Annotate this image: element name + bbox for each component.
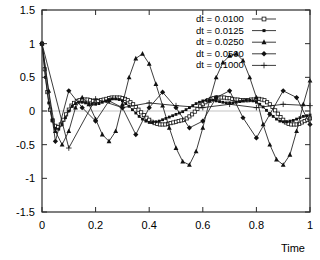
marker-filled-square (285, 120, 288, 123)
marker-filled-square (118, 98, 121, 101)
marker-filled-square (151, 121, 154, 124)
marker-filled-square (252, 100, 255, 103)
marker-filled-square (292, 119, 295, 122)
marker-open-square (274, 109, 277, 112)
marker-filled-square (222, 101, 225, 104)
marker-filled-square (295, 118, 298, 121)
marker-filled-square (185, 108, 188, 111)
marker-filled-square (181, 110, 184, 113)
marker-filled-square (205, 99, 208, 102)
marker-filled-square (98, 102, 101, 105)
marker-filled-square (248, 99, 251, 102)
x-tick-label: 0.8 (249, 219, 264, 231)
marker-filled-square (158, 120, 161, 123)
legend-sample-marker (263, 29, 266, 32)
marker-filled-square (138, 115, 141, 118)
x-axis-title: Time (281, 242, 305, 254)
y-tick-label: -1.5 (16, 206, 35, 218)
legend-label: dt = 0.1000 (196, 59, 244, 70)
marker-filled-square (124, 102, 127, 105)
marker-filled-square (74, 102, 77, 105)
marker-open-square (276, 112, 279, 115)
legend-label: dt = 0.0500 (196, 48, 244, 59)
x-tick-label: 1 (307, 219, 313, 231)
marker-filled-square (272, 115, 275, 118)
marker-filled-square (175, 113, 178, 116)
marker-filled-square (131, 108, 134, 111)
marker-filled-square (67, 110, 70, 113)
x-tick-label: 0.6 (195, 219, 210, 231)
marker-filled-square (263, 29, 266, 32)
line-chart: 00.20.40.60.81 1.510.50-0.5-1-1.5 Time d… (0, 0, 320, 260)
x-tick-label: 0.2 (88, 219, 103, 231)
y-tick-label: 0.5 (20, 71, 35, 83)
marker-filled-square (81, 101, 84, 104)
marker-filled-square (171, 114, 174, 117)
marker-filled-square (238, 100, 241, 103)
legend-label: dt = 0.0100 (196, 13, 244, 24)
marker-open-square (262, 17, 266, 21)
marker-filled-square (161, 118, 164, 121)
marker-filled-square (134, 112, 137, 115)
chart-container: 00.20.40.60.81 1.510.50-0.5-1-1.5 Time d… (0, 0, 320, 260)
marker-filled-square (201, 100, 204, 103)
marker-filled-square (275, 118, 278, 121)
marker-filled-square (198, 101, 201, 104)
marker-filled-square (265, 109, 268, 112)
marker-filled-square (195, 102, 198, 105)
marker-filled-square (289, 120, 292, 123)
marker-filled-square (111, 97, 114, 100)
marker-filled-square (168, 116, 171, 119)
marker-filled-square (148, 121, 151, 124)
legend-label: dt = 0.0125 (196, 25, 244, 36)
y-tick-label: 1.5 (20, 4, 35, 16)
y-tick-label: 1 (29, 38, 35, 50)
marker-filled-square (144, 120, 147, 123)
marker-filled-square (242, 100, 245, 103)
y-tick-label: -0.5 (16, 139, 35, 151)
marker-filled-square (278, 120, 281, 123)
marker-filled-square (282, 120, 285, 123)
marker-filled-square (218, 100, 221, 103)
legend-label: dt = 0.0250 (196, 36, 244, 47)
x-tick-label: 0.4 (142, 219, 157, 231)
marker-filled-square (155, 120, 158, 123)
x-tick-label: 0 (39, 219, 45, 231)
y-tick-label: -1 (25, 172, 35, 184)
marker-filled-square (64, 116, 67, 119)
marker-filled-square (302, 115, 305, 118)
legend-sample-marker (262, 17, 266, 21)
marker-filled-square (94, 103, 97, 106)
marker-filled-square (245, 99, 248, 102)
marker-filled-square (71, 105, 74, 108)
marker-filled-square (258, 103, 261, 106)
marker-filled-square (114, 97, 117, 100)
y-tick-label: 0 (29, 105, 35, 117)
